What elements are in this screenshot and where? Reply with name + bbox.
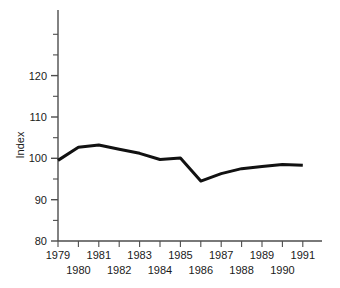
x-tick-label-1982: 1982 [107, 264, 131, 276]
chart-background [0, 0, 340, 288]
y-axis-title: Index [14, 131, 26, 158]
y-tick-label-110: 110 [29, 111, 47, 123]
x-tick-label-1988: 1988 [229, 264, 253, 276]
index-line-chart: 80 90 100 110 120 1979 1981 1983 1985 19… [0, 0, 340, 288]
x-tick-label-1986: 1986 [189, 264, 213, 276]
x-tick-label-1985: 1985 [168, 249, 192, 261]
y-tick-label-90: 90 [35, 194, 47, 206]
chart-page: 80 90 100 110 120 1979 1981 1983 1985 19… [0, 0, 340, 288]
x-tick-label-1979: 1979 [46, 249, 70, 261]
x-tick-label-1990: 1990 [270, 264, 294, 276]
y-tick-label-100: 100 [29, 152, 47, 164]
x-tick-label-1981: 1981 [87, 249, 111, 261]
x-tick-label-1980: 1980 [66, 264, 90, 276]
y-tick-label-80: 80 [35, 235, 47, 247]
x-tick-label-1984: 1984 [148, 264, 172, 276]
y-tick-label-120: 120 [29, 70, 47, 82]
x-tick-label-1991: 1991 [291, 249, 315, 261]
x-tick-label-1983: 1983 [127, 249, 151, 261]
x-tick-label-1987: 1987 [209, 249, 233, 261]
x-tick-label-1989: 1989 [250, 249, 274, 261]
